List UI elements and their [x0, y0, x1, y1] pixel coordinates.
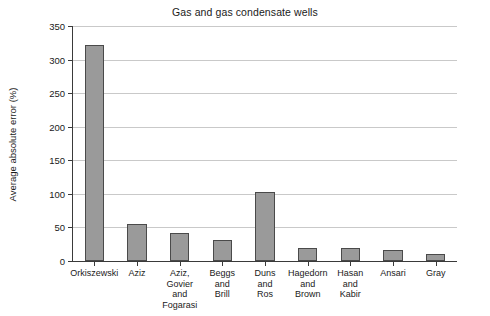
bar: [127, 224, 146, 261]
grid-line: [73, 93, 457, 94]
y-tick-label: 350: [49, 21, 65, 32]
chart-container: Gas and gas condensate wells Average abs…: [0, 0, 490, 316]
y-tick-mark: [68, 127, 73, 128]
x-tick-mark: [222, 261, 223, 266]
y-tick-label: 300: [49, 54, 65, 65]
x-tick-mark: [350, 261, 351, 266]
x-tick-mark: [308, 261, 309, 266]
y-tick-mark: [68, 194, 73, 195]
y-tick-label: 150: [49, 155, 65, 166]
x-tick-mark: [436, 261, 437, 266]
y-tick-mark: [68, 160, 73, 161]
x-tick-mark: [393, 261, 394, 266]
grid-line: [73, 60, 457, 61]
bar: [170, 233, 189, 261]
y-tick-mark: [68, 93, 73, 94]
y-tick-label: 100: [49, 188, 65, 199]
grid-line: [73, 160, 457, 161]
plot-area: 050100150200250300350 OrkiszewskiAzizAzi…: [72, 26, 457, 262]
bar: [213, 240, 232, 261]
y-tick-label: 50: [54, 222, 65, 233]
grid-line: [73, 26, 457, 27]
bar: [255, 192, 274, 261]
x-tick-mark: [265, 261, 266, 266]
x-tick-label: Gray: [405, 268, 467, 279]
x-tick-label-line: and: [319, 279, 381, 290]
y-tick-mark: [68, 60, 73, 61]
x-tick-label-line: Gray: [405, 268, 467, 279]
bar: [426, 254, 445, 261]
x-tick-mark: [94, 261, 95, 266]
y-axis-label-text: Average absolute error (%): [8, 87, 19, 201]
chart-title: Gas and gas condensate wells: [0, 6, 490, 18]
bar: [85, 45, 104, 261]
y-tick-label: 250: [49, 88, 65, 99]
bar: [341, 248, 360, 261]
y-tick-mark: [68, 261, 73, 262]
y-tick-mark: [68, 227, 73, 228]
x-tick-mark: [180, 261, 181, 266]
bar: [383, 250, 402, 261]
x-tick-label-line: Kabir: [319, 289, 381, 300]
y-tick-label: 0: [60, 256, 65, 267]
y-tick-mark: [68, 26, 73, 27]
y-tick-label: 200: [49, 121, 65, 132]
bar: [298, 248, 317, 261]
y-axis-label: Average absolute error (%): [6, 26, 20, 262]
grid-line: [73, 127, 457, 128]
x-tick-label-line: Fogarasi: [149, 300, 211, 311]
x-tick-mark: [137, 261, 138, 266]
